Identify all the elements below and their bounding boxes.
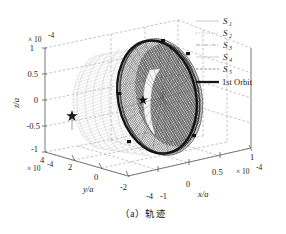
y-tick-1: 2 bbox=[68, 162, 72, 172]
x-tick-2: 0.5 bbox=[212, 167, 223, 177]
y-axis-exponent: × 10 bbox=[27, 164, 41, 173]
legend-label-s5: S bbox=[223, 64, 228, 74]
legend-label-s1: S bbox=[223, 16, 228, 26]
legend-item-s1[interactable]: S 1 bbox=[196, 16, 232, 27]
legend-label-s3: S bbox=[223, 40, 228, 50]
y-axis-exponent-sup: -4 bbox=[47, 160, 53, 169]
legend-item-s4[interactable]: S 4 bbox=[196, 52, 232, 63]
legend-item-first-orbit[interactable]: 1st Orbit bbox=[196, 77, 253, 87]
legend-sub-s3: 3 bbox=[228, 45, 232, 51]
figure-container: × 10 -4 1 0.5 0 -0.5 -1 z/a 4 2 0 -2 -4 … bbox=[0, 0, 286, 234]
z-tick-0: 1 bbox=[30, 43, 34, 53]
x-axis-exponent: × 10 bbox=[236, 167, 250, 176]
x-tick-0: -1 bbox=[160, 191, 167, 201]
x-axis-labels: -1 0 0.5 1 × 10 -4 x/a bbox=[160, 152, 262, 201]
x-tick-3: 1 bbox=[250, 152, 254, 162]
legend-sub-s4: 4 bbox=[229, 57, 232, 63]
z-tick-3: -0.5 bbox=[27, 121, 40, 131]
legend-sub-s5: 5 bbox=[229, 69, 232, 75]
z-axis-exponent-sup: -4 bbox=[48, 31, 54, 40]
z-tick-2: 0 bbox=[34, 95, 38, 105]
z-tick-4: -1 bbox=[31, 144, 38, 154]
figure-caption: （a）轨迹 bbox=[0, 206, 286, 220]
legend[interactable]: S 1 S 2 S 3 S 4 S 5 bbox=[196, 16, 253, 87]
y-tick-3: -2 bbox=[120, 182, 127, 192]
x-axis-label: x/a bbox=[197, 189, 208, 199]
x-tick-1: 0 bbox=[186, 179, 190, 189]
legend-label-s4: S bbox=[223, 52, 228, 62]
y-axis-label: y/a bbox=[82, 184, 93, 194]
legend-item-s5[interactable]: S 5 bbox=[196, 64, 232, 75]
z-tick-1: 0.5 bbox=[27, 69, 38, 79]
y-axis-labels: 4 2 0 -2 -4 × 10 -4 y/a bbox=[27, 155, 154, 201]
x-axis-exponent-sup: -4 bbox=[256, 163, 262, 172]
legend-label-first-orbit: 1st Orbit bbox=[222, 77, 253, 87]
y-tick-4: -4 bbox=[146, 191, 154, 201]
trajectory-3d-plot: × 10 -4 1 0.5 0 -0.5 -1 z/a 4 2 0 -2 -4 … bbox=[0, 0, 286, 234]
legend-item-s3[interactable]: S 3 bbox=[196, 40, 232, 51]
legend-label-s2: S bbox=[223, 28, 228, 38]
z-axis-label: z/a bbox=[11, 98, 21, 109]
y-tick-0: 4 bbox=[40, 155, 45, 165]
y-tick-2: 0 bbox=[94, 172, 98, 182]
legend-sub-s1: 1 bbox=[229, 21, 232, 27]
z-axis-labels: × 10 -4 1 0.5 0 -0.5 -1 z/a bbox=[11, 31, 54, 154]
y-axis-line bbox=[45, 152, 128, 176]
legend-sub-s2: 2 bbox=[229, 33, 232, 39]
